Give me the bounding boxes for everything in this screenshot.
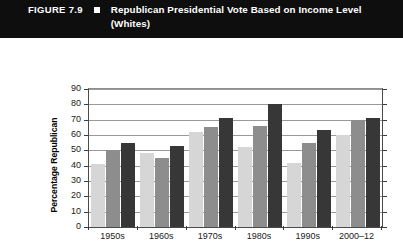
y-axis-tickmark <box>383 89 387 90</box>
y-axis-tickmark <box>84 166 88 167</box>
y-axis-tickmark <box>383 104 387 105</box>
y-axis-tick-labels: 0102030405060708090 <box>58 88 81 226</box>
bar <box>91 164 105 227</box>
bar <box>219 118 233 227</box>
bar <box>287 163 301 227</box>
figure-header-row: FIGURE 7.9 Republican Presidential Vote … <box>0 3 403 30</box>
x-axis-tick-label: 1970s <box>186 231 235 245</box>
y-axis-tickmark <box>84 120 88 121</box>
bar <box>238 147 252 227</box>
x-axis-tick-label: 1950s <box>88 231 137 245</box>
y-axis-tickmark <box>84 104 88 105</box>
y-axis-tick-label: 10 <box>71 206 81 216</box>
x-axis-tick-label: 1960s <box>137 231 186 245</box>
plot-area <box>88 88 383 228</box>
bar-group <box>284 89 333 227</box>
bar-group <box>138 89 187 227</box>
figure-title: Republican Presidential Vote Based on In… <box>111 3 379 30</box>
y-axis-tickmark <box>383 166 387 167</box>
y-axis-tickmark <box>383 227 387 228</box>
x-axis-tickmark <box>137 226 138 230</box>
y-axis-tickmark <box>383 150 387 151</box>
y-axis-tick-label: 30 <box>71 175 81 185</box>
bar <box>351 120 365 227</box>
bar <box>317 130 331 227</box>
y-axis-tickmark <box>383 135 387 136</box>
bar <box>268 104 282 227</box>
y-axis-tick-label: 70 <box>71 114 81 124</box>
bars-layer <box>89 89 382 227</box>
bar <box>170 146 184 227</box>
bar <box>189 132 203 227</box>
y-axis-tickmark <box>84 181 88 182</box>
x-axis-tick-label: 1980s <box>234 231 283 245</box>
y-axis-tick-label: 0 <box>76 221 81 231</box>
y-axis-tickmark <box>84 135 88 136</box>
x-axis-tick-label: 1990s <box>283 231 332 245</box>
square-bullet-icon <box>94 7 100 13</box>
bar <box>140 153 154 227</box>
bar <box>155 158 169 227</box>
bar-group <box>89 89 138 227</box>
y-axis-tick-label: 40 <box>71 160 81 170</box>
chart-region: Percentage Republican 010203040506070809… <box>0 38 403 248</box>
x-axis-tickmark <box>186 226 187 230</box>
x-axis-tickmark <box>332 226 333 230</box>
bar <box>106 150 120 227</box>
x-axis-tickmark <box>283 226 284 230</box>
y-axis-tickmark <box>383 181 387 182</box>
y-axis-tickmark <box>84 150 88 151</box>
y-axis-tickmark <box>383 196 387 197</box>
y-axis-tick-label: 50 <box>71 144 81 154</box>
bar <box>336 135 350 227</box>
bar-group <box>235 89 284 227</box>
bar <box>121 143 135 227</box>
x-axis-tickmark <box>235 226 236 230</box>
bar <box>253 126 267 227</box>
figure-header: FIGURE 7.9 Republican Presidential Vote … <box>0 0 403 38</box>
bar-group <box>187 89 236 227</box>
bar <box>302 143 316 227</box>
x-axis-tickmark <box>88 226 89 230</box>
y-axis-tick-label: 60 <box>71 129 81 139</box>
bar <box>366 118 380 227</box>
x-axis-tickmark <box>381 226 382 230</box>
x-axis-tick-label: 2000–12 <box>332 231 381 245</box>
y-axis-tickmark <box>84 212 88 213</box>
y-axis-tick-label: 90 <box>71 83 81 93</box>
y-axis-tickmark <box>84 196 88 197</box>
bar-group <box>333 89 382 227</box>
figure-number-label: FIGURE 7.9 <box>0 3 83 15</box>
y-axis-tick-label: 20 <box>71 190 81 200</box>
x-axis-tick-labels: 1950s1960s1970s1980s1990s2000–12 <box>88 231 381 245</box>
bar <box>204 127 218 227</box>
y-axis-tick-label: 80 <box>71 98 81 108</box>
y-axis-tickmark <box>383 212 387 213</box>
y-axis-tickmark <box>84 89 88 90</box>
y-axis-tickmark <box>383 120 387 121</box>
